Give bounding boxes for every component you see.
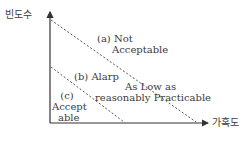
region-a-label-2: Acceptable (112, 44, 168, 55)
region-c-label-3: able (58, 112, 79, 123)
risk-diagram (0, 0, 246, 143)
alarp-desc-2: reasonably Practicable (95, 92, 211, 103)
x-axis-label: 가혹도 (212, 117, 239, 128)
region-c-label-1: (c) (56, 90, 78, 101)
y-axis-label: 빈도수 (5, 9, 32, 20)
alarp-desc-1: As Low as (125, 81, 176, 92)
region-b-label: (b) Alarp (74, 71, 119, 82)
region-a-label-1: (a) Not (97, 33, 133, 44)
region-c-label-2: Accept (52, 101, 87, 112)
